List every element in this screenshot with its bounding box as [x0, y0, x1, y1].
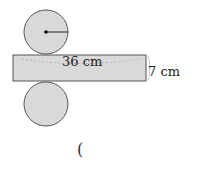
- height-label: 7 cm: [148, 65, 180, 78]
- center-dot: [44, 30, 48, 34]
- answer-paren: (: [77, 142, 83, 158]
- cylinder-net-figure: [0, 0, 221, 175]
- bottom-circle: [24, 82, 68, 126]
- length-label: 36 cm: [62, 55, 102, 68]
